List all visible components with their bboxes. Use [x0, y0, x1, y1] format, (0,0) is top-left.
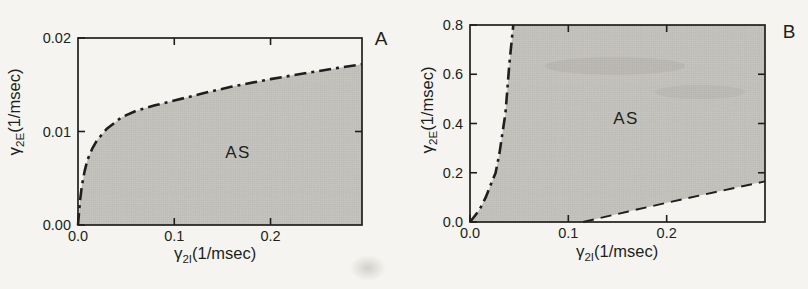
panel-a: 0.00.10.20.000.010.02γ2I(1/msec)γ2E(1/ms…: [5, 28, 388, 265]
scan-smudge: [655, 85, 745, 99]
y-axis-label: γ2E(1/msec): [5, 69, 26, 156]
phase-diagram-figure: 0.00.10.20.000.010.02γ2I(1/msec)γ2E(1/ms…: [0, 0, 808, 289]
as-region-label: AS: [613, 109, 639, 128]
x-tick-label: 0.2: [260, 228, 280, 244]
y-axis-label: γ2E(1/msec): [418, 67, 439, 154]
panel-letter: A: [375, 28, 388, 49]
scan-smudge: [545, 57, 685, 75]
y-tick-label: 0.6: [443, 66, 463, 82]
y-tick-label: 0.02: [43, 30, 71, 46]
panel-letter: B: [783, 21, 796, 42]
y-tick-label: 0.2: [443, 165, 463, 181]
figure-canvas: 0.00.10.20.000.010.02γ2I(1/msec)γ2E(1/ms…: [0, 0, 808, 289]
as-region-shading: [78, 64, 362, 225]
as-region-label: AS: [225, 143, 251, 162]
y-tick-label: 0.0: [443, 214, 463, 230]
y-tick-label: 0.8: [443, 17, 463, 33]
panel-b: 0.00.10.20.00.20.40.60.8γ2I(1/msec)γ2E(1…: [418, 17, 795, 263]
scan-smudge: [350, 255, 386, 281]
x-axis-label: γ2I(1/msec): [174, 244, 256, 265]
x-tick-label: 0.2: [657, 225, 677, 241]
x-axis-label: γ2I(1/msec): [576, 242, 658, 263]
y-tick-label: 0.4: [443, 116, 463, 132]
x-tick-label: 0.1: [164, 228, 184, 244]
y-tick-label: 0.00: [43, 217, 71, 233]
x-tick-label: 0.1: [558, 225, 578, 241]
y-tick-label: 0.01: [43, 124, 71, 140]
